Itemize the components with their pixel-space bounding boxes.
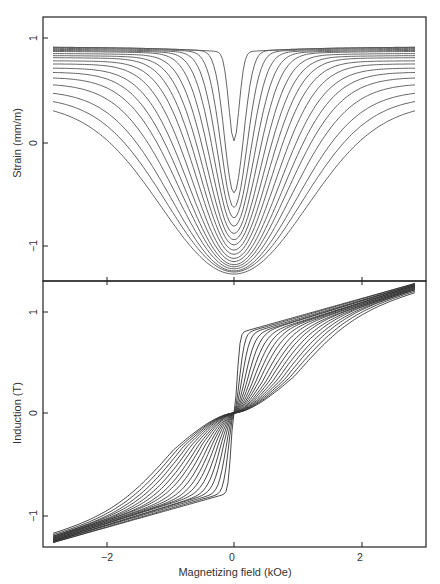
- top-ytick-1: 1: [27, 35, 39, 41]
- strain-curve: [53, 64, 415, 258]
- bottom-ytick-0: 0: [27, 410, 39, 416]
- top-y-axis-label: Strain (mm/m): [11, 108, 23, 178]
- strain-curve: [53, 58, 415, 250]
- strain-curve: [53, 61, 415, 255]
- strain-curve: [53, 68, 415, 261]
- xtick-0: 0: [229, 551, 235, 563]
- strain-curve: [53, 73, 415, 265]
- figure: 1 0 −1 Strain (mm/m) 1 0 −1 Induction (T…: [0, 0, 440, 584]
- strain-curves: [53, 47, 415, 274]
- strain-curve: [53, 78, 415, 267]
- top-ytick-neg1: −1: [27, 240, 39, 252]
- xtick-neg2: −2: [101, 551, 113, 563]
- strain-curve: [53, 54, 415, 240]
- bottom-plot-frame: [43, 281, 426, 547]
- top-ytick-0: 0: [27, 140, 39, 146]
- xtick-2: 2: [357, 551, 363, 563]
- bottom-y-axis-label: Induction (T): [11, 382, 23, 444]
- strain-curve: [53, 93, 415, 271]
- strain-curve: [53, 50, 415, 226]
- bottom-ytick-1: 1: [27, 309, 39, 315]
- x-axis-label: Magnetizing field (kOe): [178, 566, 291, 578]
- top-plot-frame: [43, 17, 426, 281]
- strain-curve: [53, 56, 415, 245]
- strain-curve: [53, 47, 415, 141]
- induction-curve: [53, 293, 415, 534]
- strain-curve: [53, 47, 415, 193]
- induction-curves: [53, 284, 415, 543]
- bottom-ytick-neg1: −1: [27, 510, 39, 522]
- strain-curve: [53, 102, 415, 272]
